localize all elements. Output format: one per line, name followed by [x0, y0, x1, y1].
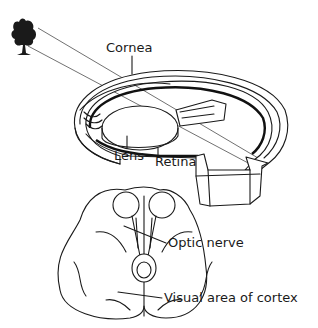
retina-label: Retina: [155, 154, 196, 169]
optic-nerve-label: Optic nerve: [168, 235, 244, 250]
lens-label: Lens: [114, 148, 144, 163]
tree-icon: [11, 18, 36, 55]
cornea-label: Cornea: [106, 40, 152, 55]
eyeball: [74, 71, 287, 206]
visual-cortex-label: Visual area of cortex: [164, 290, 298, 305]
eye-brain-diagram: Cornea Lens Retina Optic nerve Visual ar…: [0, 0, 318, 328]
diagram-canvas: Cornea Lens Retina Optic nerve Visual ar…: [0, 0, 318, 328]
